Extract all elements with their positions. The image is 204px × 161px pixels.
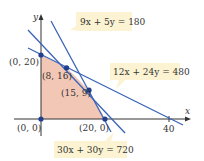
vertex-20-0 xyxy=(102,116,107,121)
vertex-label-0-20: (0, 20) xyxy=(9,57,39,67)
vertex-label-15-9: (15, 9) xyxy=(61,88,91,98)
y-axis-arrow-icon xyxy=(39,14,44,20)
vertex-8-16 xyxy=(64,65,69,70)
callout-12x-24y-480: 12x + 24y = 480 xyxy=(110,63,190,89)
callout-30x-30y-720: 30x + 30y = 720 xyxy=(54,132,134,158)
feasible-region xyxy=(41,55,105,119)
equation-label-9x-5y-180: 9x + 5y = 180 xyxy=(80,17,146,27)
equation-label-30x-30y-720: 30x + 30y = 720 xyxy=(57,145,134,155)
vertex-0-20 xyxy=(38,52,43,57)
x-tick-label-40: 40 xyxy=(163,124,175,134)
lp-diagram: y x 40 (0, 20) (8, 16) (15, 9) (20, 0) (… xyxy=(0,0,204,161)
y-axis-label: y xyxy=(32,12,39,22)
x-axis-label: x xyxy=(185,106,190,116)
x-axis-arrow-icon xyxy=(185,117,191,122)
callout-9x-5y-180: 9x + 5y = 180 xyxy=(70,12,146,31)
vertex-label-0-0: (0, 0) xyxy=(17,123,41,133)
equation-label-12x-24y-480: 12x + 24y = 480 xyxy=(113,67,190,77)
vertex-label-8-16: (8, 16) xyxy=(42,71,72,81)
vertex-0-0 xyxy=(38,116,43,121)
vertex-label-20-0: (20, 0) xyxy=(79,123,109,133)
